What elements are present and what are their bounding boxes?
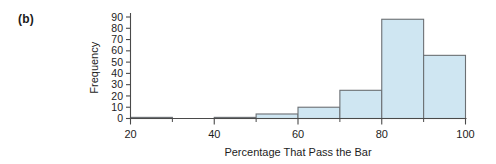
histogram-bar <box>256 114 298 119</box>
x-tick-label: 80 <box>376 128 388 140</box>
x-tick-label: 20 <box>124 128 136 140</box>
histogram-bar <box>298 107 340 118</box>
y-tick-label: 90 <box>111 11 123 23</box>
y-axis-ticks: 0102030405060708090 <box>111 11 130 125</box>
x-tick-label: 40 <box>208 128 220 140</box>
y-tick-label: 60 <box>111 44 123 56</box>
y-axis-title: Frequency <box>88 41 100 93</box>
y-tick-label: 20 <box>111 90 123 102</box>
y-tick-label: 40 <box>111 67 123 79</box>
y-tick-label: 0 <box>117 112 123 124</box>
y-tick-label: 30 <box>111 78 123 90</box>
x-tick-label: 100 <box>456 128 474 140</box>
bars-group <box>131 19 466 118</box>
histogram-bar <box>424 55 466 118</box>
x-tick-label: 60 <box>292 128 304 140</box>
y-tick-label: 50 <box>111 56 123 68</box>
y-tick-label: 80 <box>111 22 123 34</box>
figure-root: (b) 0102030405060708090 20406080100 Freq… <box>0 0 496 164</box>
histogram-plot-svg: 0102030405060708090 20406080100 Frequenc… <box>0 0 496 164</box>
x-axis-title: Percentage That Pass the Bar <box>224 146 371 158</box>
histogram-chart: 0102030405060708090 20406080100 Frequenc… <box>0 0 496 164</box>
y-tick-label: 10 <box>111 101 123 113</box>
histogram-bar <box>382 19 424 118</box>
x-axis-ticks: 20406080100 <box>124 119 474 140</box>
y-tick-label: 70 <box>111 33 123 45</box>
histogram-bar <box>340 90 382 118</box>
